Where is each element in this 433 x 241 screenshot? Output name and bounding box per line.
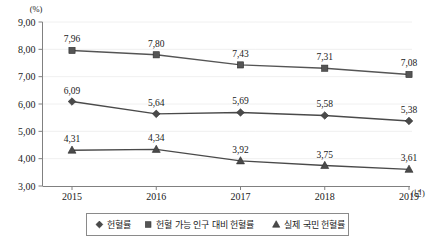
data-label: 5,64 — [148, 98, 165, 108]
data-label: 7,31 — [316, 52, 333, 62]
data-label: 3,75 — [316, 150, 333, 160]
data-label: 4,34 — [148, 133, 165, 143]
y-tick-label: 7,00 — [18, 71, 36, 82]
data-label: 4,31 — [64, 134, 81, 144]
data-label: 3,61 — [401, 153, 418, 163]
y-tick-label: 9,00 — [18, 17, 36, 28]
x-tick-label: 2019 — [399, 191, 419, 202]
y-axis-unit-label: (%) — [30, 4, 43, 14]
chart-canvas: (%) (년) 9,008,007,006,005,004,003,00 201… — [0, 0, 433, 241]
square-marker — [406, 71, 412, 77]
square-marker — [322, 65, 328, 71]
square-marker — [69, 47, 75, 53]
x-tick-label: 2016 — [146, 191, 166, 202]
legend-item-label: 실제 국민 헌혈률 — [284, 219, 345, 230]
data-label: 7,96 — [64, 34, 81, 44]
data-label: 5,58 — [316, 99, 333, 109]
y-tick-label: 4,00 — [18, 153, 36, 164]
y-tick-label: 5,00 — [18, 126, 36, 137]
data-label: 7,43 — [232, 49, 249, 59]
data-label: 3,92 — [232, 145, 249, 155]
data-label: 7,80 — [148, 39, 165, 49]
chart-legend: 헌혈률헌혈 가능 인구 대비 헌혈률실제 국민 헌혈률 — [87, 214, 349, 236]
square-marker — [153, 52, 159, 58]
legend-item-label: 헌혈률 — [107, 219, 131, 230]
y-tick-label: 8,00 — [18, 44, 36, 55]
legend-item-label: 헌혈 가능 인구 대비 헌혈률 — [156, 219, 254, 230]
data-label: 6,09 — [64, 86, 81, 96]
square-marker — [145, 222, 151, 228]
line-chart: (%) (년) 9,008,007,006,005,004,003,00 201… — [0, 0, 433, 241]
x-tick-label: 2017 — [231, 191, 251, 202]
data-label: 7,08 — [401, 58, 418, 68]
data-label: 5,38 — [401, 105, 418, 115]
square-marker — [237, 62, 243, 68]
data-label: 5,69 — [232, 96, 249, 106]
y-tick-label: 3,00 — [18, 181, 36, 192]
x-tick-label: 2015 — [62, 191, 82, 202]
y-tick-label: 6,00 — [18, 99, 36, 110]
x-tick-label: 2018 — [315, 191, 335, 202]
